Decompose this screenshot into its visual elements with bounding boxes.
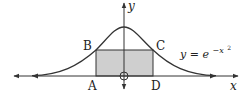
vertex-label-b: B: [83, 39, 92, 53]
vertex-label-a: A: [87, 79, 97, 93]
vertex-label-d: D: [151, 79, 161, 93]
gaussian-rectangle-diagram: B C A D y x y = e −x 2: [0, 0, 246, 98]
vertex-label-c: C: [156, 39, 165, 53]
curve-equation-label: y = e −x 2: [179, 43, 231, 61]
x-axis-label: x: [230, 79, 237, 93]
y-axis-label: y: [127, 0, 135, 13]
